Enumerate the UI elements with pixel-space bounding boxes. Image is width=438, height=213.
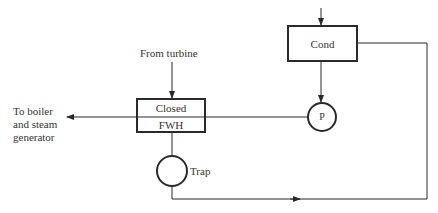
fwh-label: FWH [137, 119, 205, 131]
trap-circle [157, 156, 187, 186]
fwh-diagram: From turbine To boiler and steam generat… [0, 0, 438, 213]
from-turbine-label: From turbine [140, 47, 198, 59]
to-boiler-label-1: To boiler [13, 105, 53, 117]
trap-label: Trap [190, 165, 210, 177]
diagram-lines [0, 0, 438, 213]
closed-label: Closed [137, 102, 205, 114]
pump-label: P [308, 111, 336, 123]
to-boiler-label-3: generator [13, 131, 55, 143]
to-boiler-label-2: and steam [13, 118, 57, 130]
cond-label: Cond [288, 38, 357, 50]
